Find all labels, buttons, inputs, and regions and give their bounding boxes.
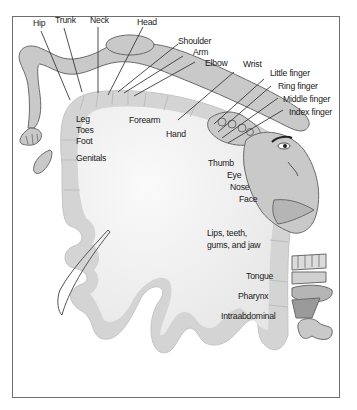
label-middle-finger: Middle finger	[283, 93, 330, 104]
label-index-finger: Index finger	[289, 106, 332, 117]
label-eye: Eye	[227, 169, 241, 180]
label-lips-line2: gums, and jaw	[207, 239, 260, 250]
label-foot: Foot	[76, 135, 93, 146]
label-neck: Neck	[90, 14, 109, 25]
label-hip: Hip	[33, 17, 45, 28]
label-nose: Nose	[230, 181, 249, 192]
label-lips-line1: Lips, teeth,	[207, 227, 247, 238]
homunculus-illustration	[0, 0, 357, 410]
label-pharynx: Pharynx	[238, 290, 268, 301]
label-little-finger: Little finger	[270, 67, 310, 78]
label-intraabdominal: Intraabdominal	[221, 310, 276, 321]
label-trunk: Trunk	[55, 14, 76, 25]
label-leg: Leg	[76, 113, 90, 124]
label-ring-finger: Ring finger	[278, 80, 318, 91]
label-elbow: Elbow	[205, 57, 228, 68]
label-hand: Hand	[166, 128, 186, 139]
label-shoulder: Shoulder	[178, 35, 211, 46]
label-toes: Toes	[76, 124, 94, 135]
label-genitals: Genitals	[76, 152, 106, 163]
label-tongue: Tongue	[246, 270, 273, 281]
label-forearm: Forearm	[129, 114, 160, 125]
label-thumb: Thumb	[208, 157, 234, 168]
label-arm: Arm	[193, 46, 208, 57]
label-face: Face	[239, 193, 257, 204]
label-head: Head	[137, 16, 157, 27]
label-wrist: Wrist	[243, 58, 262, 69]
